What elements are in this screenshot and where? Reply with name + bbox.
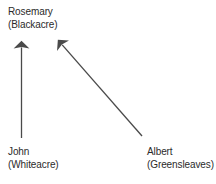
node-name-albert: Albert <box>147 145 214 158</box>
node-parcel-greensleaves: (Greensleaves) <box>147 158 214 171</box>
conveyance-diagram: Rosemary (Blackacre) John (Whiteacre) Al… <box>0 0 216 184</box>
node-parcel-blackacre: (Blackacre) <box>8 18 57 31</box>
node-parcel-whiteacre: (Whiteacre) <box>8 158 59 171</box>
node-name-rosemary: Rosemary <box>8 5 57 18</box>
node-label-albert: Albert (Greensleaves) <box>147 145 214 171</box>
node-name-john: John <box>8 145 59 158</box>
node-label-rosemary: Rosemary (Blackacre) <box>8 5 57 31</box>
arrow-albert-to-rosemary <box>62 45 142 136</box>
node-label-john: John (Whiteacre) <box>8 145 59 171</box>
